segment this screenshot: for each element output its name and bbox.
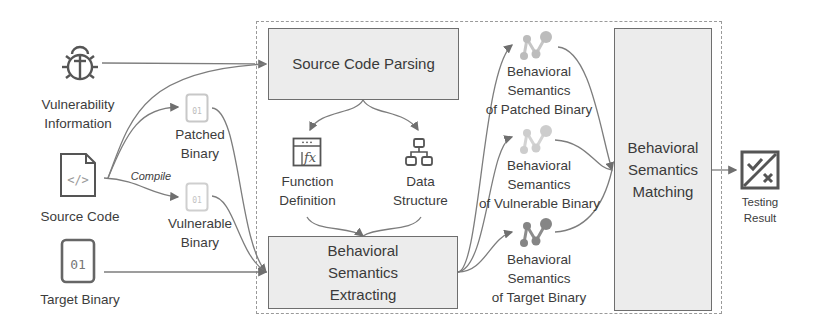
- data-structure-line1: Data: [378, 172, 463, 191]
- patched-semantics-graph-icon: [518, 30, 554, 62]
- svg-text:</>: </>: [67, 173, 89, 187]
- check-cross-icon: [740, 150, 780, 190]
- patched-semantics-line1: Behavioral: [484, 62, 594, 81]
- extracting-line3: Extracting: [330, 284, 397, 306]
- function-icon: fx: [292, 137, 322, 167]
- vulnerable-semantics-line3: of Vulnerable Binary: [479, 194, 599, 213]
- vulnerable-binary-line1: Vulnerable: [150, 214, 250, 233]
- function-definition-label: Function Definition: [265, 172, 350, 210]
- svg-text:01: 01: [192, 107, 202, 116]
- target-semantics-line3: of Target Binary: [484, 288, 594, 307]
- patched-semantics-line3: of Patched Binary: [484, 100, 594, 119]
- semantics-extracting-box: Behavioral Semantics Extracting: [268, 236, 458, 309]
- matching-line1: Behavioral: [628, 137, 699, 159]
- target-semantics-graph-icon: [518, 217, 554, 249]
- target-semantics-line1: Behavioral: [484, 250, 594, 269]
- data-structure-line2: Structure: [378, 191, 463, 210]
- patched-semantics-line2: Semantics: [484, 81, 594, 100]
- vulnerability-info-line2: Information: [28, 114, 128, 133]
- hierarchy-icon: [404, 137, 434, 167]
- extracting-line1: Behavioral: [328, 240, 399, 262]
- svg-text:fx: fx: [303, 150, 317, 165]
- semantics-matching-box: Behavioral Semantics Matching: [614, 28, 712, 311]
- target-semantics-line2: Semantics: [484, 269, 594, 288]
- source-code-parsing-box: Source Code Parsing: [268, 28, 459, 100]
- vulnerable-semantics-line1: Behavioral: [479, 156, 599, 175]
- svg-text:01: 01: [192, 196, 202, 205]
- vulnerable-binary-line2: Binary: [150, 233, 250, 252]
- source-code-label: Source Code: [30, 207, 130, 226]
- vulnerability-info-line1: Vulnerability: [28, 95, 128, 114]
- vulnerable-semantics-graph-icon: [518, 124, 554, 156]
- bug-icon: [54, 38, 104, 88]
- vulnerable-binary-label: Vulnerable Binary: [150, 214, 250, 252]
- target-binary-label: Target Binary: [25, 290, 135, 309]
- testing-result-line1: Testing: [725, 194, 795, 210]
- svg-text:01: 01: [70, 257, 86, 272]
- vulnerable-binary-icon: 01: [185, 182, 209, 212]
- testing-result-label: Testing Result: [725, 194, 795, 226]
- function-definition-line2: Definition: [265, 191, 350, 210]
- matching-line3: Matching: [633, 181, 694, 203]
- patched-binary-line1: Patched: [160, 125, 240, 144]
- code-file-icon: </>: [58, 152, 98, 198]
- vulnerable-semantics-label: Behavioral Semantics of Vulnerable Binar…: [479, 156, 599, 213]
- target-binary-icon: 01: [60, 238, 96, 284]
- patched-binary-label: Patched Binary: [160, 125, 240, 163]
- function-definition-line1: Function: [265, 172, 350, 191]
- vulnerable-semantics-line2: Semantics: [479, 175, 599, 194]
- patched-binary-icon: 01: [185, 93, 209, 123]
- data-structure-label: Data Structure: [378, 172, 463, 210]
- matching-line2: Semantics: [628, 159, 698, 181]
- patched-binary-line2: Binary: [160, 144, 240, 163]
- testing-result-line2: Result: [725, 210, 795, 226]
- vulnerability-info-label: Vulnerability Information: [28, 95, 128, 133]
- compile-label: Compile: [126, 167, 176, 186]
- extracting-line2: Semantics: [328, 262, 398, 284]
- source-code-parsing-label: Source Code Parsing: [292, 53, 435, 75]
- target-semantics-label: Behavioral Semantics of Target Binary: [484, 250, 594, 307]
- patched-semantics-label: Behavioral Semantics of Patched Binary: [484, 62, 594, 119]
